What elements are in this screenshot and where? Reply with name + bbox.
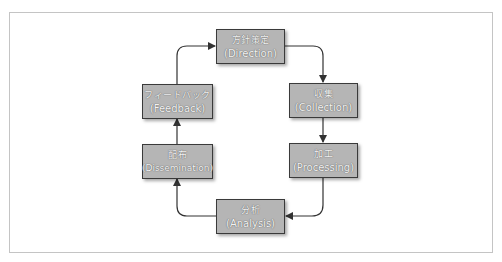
node-label-en: (Processing) [293, 161, 354, 174]
node-label-jp: 方針策定 [232, 34, 270, 47]
arrow-direction-to-collection [285, 46, 323, 82]
node-direction: 方針策定 (Direction) [216, 29, 285, 64]
arrow-feedback-to-direction [177, 46, 215, 84]
arrow-processing-to-analysis [286, 178, 323, 216]
node-analysis: 分析 (Analysis) [216, 199, 285, 234]
node-label-en: (Collection) [295, 101, 352, 114]
node-feedback: フィードバック (Feedback) [142, 84, 213, 119]
node-label-en: (Dissemination) [142, 162, 213, 175]
node-label-jp: 加工 [314, 148, 333, 161]
arrow-analysis-to-dissemination [177, 179, 216, 216]
node-dissemination: 配布 (Dissemination) [142, 144, 213, 179]
node-label-jp: 収集 [314, 88, 333, 101]
node-collection: 収集 (Collection) [289, 83, 358, 118]
node-label-en: (Direction) [224, 47, 277, 60]
node-label-jp: 配布 [168, 149, 187, 162]
node-label-en: (Feedback) [150, 102, 205, 115]
node-label-en: (Analysis) [226, 217, 275, 230]
node-label-jp: 分析 [241, 204, 260, 217]
node-label-jp: フィードバック [144, 89, 211, 102]
node-processing: 加工 (Processing) [289, 143, 358, 178]
